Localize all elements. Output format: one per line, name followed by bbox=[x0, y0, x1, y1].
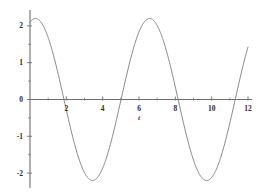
y-tick-label: 2 bbox=[19, 21, 23, 30]
x-tick-label: 2 bbox=[64, 104, 68, 113]
chart-background bbox=[0, 0, 260, 194]
x-tick-label: 10 bbox=[208, 104, 216, 113]
plot-container: 24681012-2-1012 t bbox=[0, 0, 260, 194]
x-tick-label: 12 bbox=[244, 104, 252, 113]
y-tick-label: 0 bbox=[19, 95, 23, 104]
y-tick-label: 1 bbox=[19, 58, 23, 67]
x-tick-label: 6 bbox=[137, 104, 141, 113]
y-tick-label: -2 bbox=[17, 169, 23, 178]
y-tick-label: -1 bbox=[17, 132, 23, 141]
cosine-wave-chart: 24681012-2-1012 t bbox=[0, 0, 260, 194]
x-tick-label: 8 bbox=[173, 104, 177, 113]
x-tick-label: 4 bbox=[101, 104, 105, 113]
